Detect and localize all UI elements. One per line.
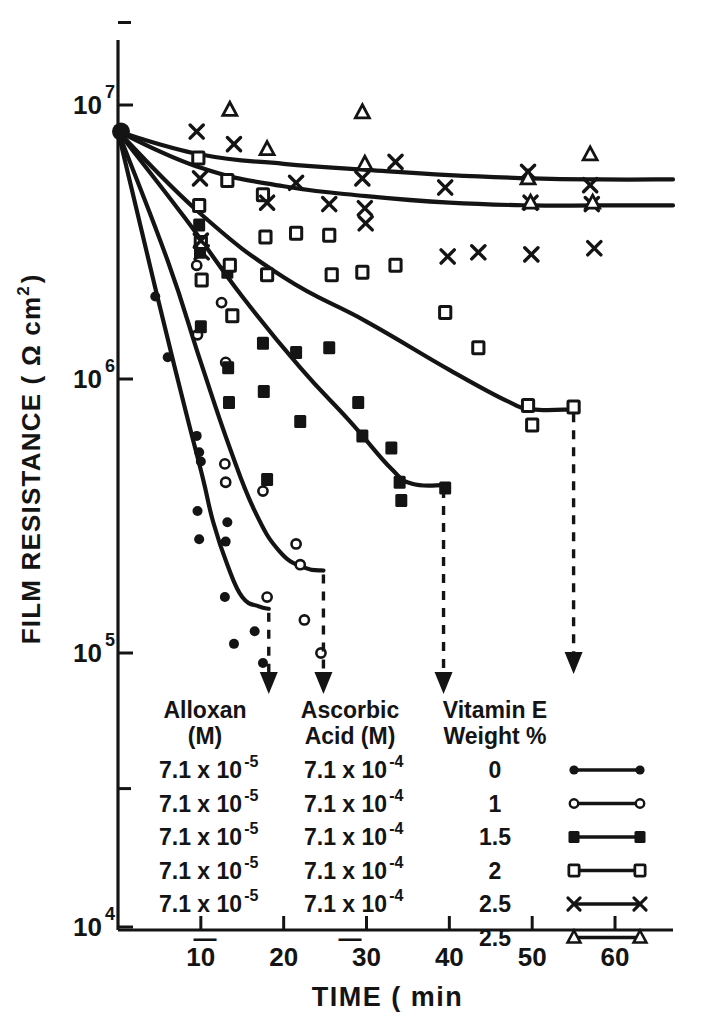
marker-filled-circle [221,537,231,547]
legend-vitamin-e-value: 2.5 [479,891,511,917]
legend-ascorbic-exponent: -4 [389,820,403,837]
svg-text:7: 7 [105,82,115,102]
marker-open-circle [300,615,309,624]
marker-open-square [194,199,205,211]
legend-ascorbic-value: 7.1 x 10 [304,824,387,850]
legend-vitamin-e-value: 1 [489,791,502,817]
legend-ascorbic-value: 7.1 x 10 [304,891,387,917]
marker-filled-square [258,385,270,398]
marker-open-circle [296,560,305,569]
marker-filled-circle [250,626,260,636]
marker-open-square [522,400,533,412]
y-axis-title: FILM RESISTANCE ( Ω cm2) [14,275,46,645]
svg-text:6: 6 [105,356,115,376]
legend-ascorbic-value: 7.1 x 10 [304,791,387,817]
marker-open-square [260,231,271,243]
marker-filled-circle [194,534,204,544]
marker-open-square [569,865,579,876]
svg-text:10: 10 [73,364,102,394]
legend-alloxan-value: 7.1 x 10 [159,858,242,884]
legend-vitamin-e-value: 2 [489,858,502,884]
legend-alloxan-exponent: -5 [244,753,258,770]
marker-filled-square [385,441,397,454]
x-tick-label: 50 [518,942,547,972]
legend-vitamin-e-value: 0 [489,757,502,783]
marker-open-square [290,227,301,239]
marker-filled-square [323,341,335,354]
legend-vitamin-e-value: 2.5 [479,925,511,951]
marker-filled-square [568,831,579,843]
marker-open-circle [291,539,300,548]
marker-open-square [635,865,645,876]
marker-filled-square [222,361,234,374]
svg-text:): ) [16,275,46,284]
marker-open-square [193,152,204,164]
marker-filled-square [223,396,235,409]
x-tick-label: 40 [435,942,464,972]
marker-open-square [196,274,207,286]
marker-open-circle [217,298,226,307]
marker-open-square [473,342,484,354]
marker-open-square [324,229,335,241]
legend-ascorbic-exponent: -4 [389,787,403,804]
figure-container: 107106105104102030405060TIME ( minFILM R… [0,0,706,1034]
marker-open-circle [263,592,272,601]
marker-filled-square [195,320,207,333]
legend-alloxan-value: 7.1 x 10 [159,791,242,817]
svg-text:FILM RESISTANCE ( Ω cm: FILM RESISTANCE ( Ω cm [16,296,46,645]
marker-filled-circle [569,765,578,774]
legend-alloxan-value: 7.1 x 10 [159,757,242,783]
marker-filled-square [394,476,406,489]
marker-open-square [390,259,401,271]
marker-filled-square [634,831,645,843]
marker-filled-square [356,429,368,442]
legend-alloxan-exponent: -5 [244,787,258,804]
marker-filled-square [294,415,306,428]
legend-ascorbic-exponent: -4 [389,753,403,770]
legend-alloxan-value: 7.1 x 10 [159,891,242,917]
origin-blob [112,123,130,141]
marker-filled-square [290,346,302,359]
legend-alloxan-exponent: -5 [244,854,258,871]
legend-header: Ascorbic [301,697,400,723]
legend-alloxan-value: — [194,925,217,951]
svg-text:5: 5 [105,630,115,650]
legend-header: Acid (M) [305,723,396,749]
marker-open-circle [570,799,578,807]
marker-filled-square [257,337,269,350]
legend-header: Alloxan [163,697,246,723]
marker-open-square [527,419,538,431]
x-axis-title: TIME ( min [312,982,464,1012]
marker-open-square [224,259,235,271]
marker-open-square [440,306,451,318]
marker-filled-circle [196,456,206,466]
legend-ascorbic-value: — [339,925,362,951]
svg-text:2: 2 [14,286,33,295]
marker-open-square [326,269,337,281]
marker-open-square [357,266,368,278]
legend-alloxan-exponent: -5 [244,887,258,904]
marker-open-circle [192,261,201,270]
marker-filled-circle [163,352,173,362]
legend-header: Weight % [443,723,546,749]
marker-filled-square [395,494,407,507]
legend-ascorbic-value: 7.1 x 10 [304,858,387,884]
marker-filled-circle [192,431,202,441]
legend-ascorbic-exponent: -4 [389,887,403,904]
marker-open-square [227,310,238,322]
svg-text:10: 10 [73,912,102,942]
legend-ascorbic-value: 7.1 x 10 [304,757,387,783]
legend-ascorbic-exponent: -4 [389,854,403,871]
marker-filled-circle [194,447,204,457]
marker-open-square [262,269,273,281]
marker-open-square [568,401,579,413]
legend-vitamin-e-value: 1.5 [479,824,511,850]
marker-open-circle [258,486,267,495]
svg-text:4: 4 [105,904,115,924]
legend-header: Vitamin E [443,697,547,723]
marker-filled-square [193,218,205,231]
marker-open-circle [636,799,644,807]
legend-alloxan-exponent: -5 [244,820,258,837]
legend-header: (M) [188,723,222,749]
marker-filled-circle [150,292,160,302]
